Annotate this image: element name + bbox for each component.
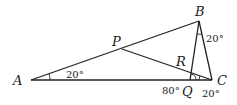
label-q: Q — [182, 84, 193, 99]
angle-label-b: 20° — [206, 33, 224, 44]
segment-bc — [199, 21, 212, 80]
label-b: B — [194, 4, 205, 19]
label-a: A — [12, 73, 22, 88]
geometry-diagram: A B C P R Q 20° 20° 20° 80° — [0, 0, 237, 105]
label-r: R — [175, 54, 186, 69]
label-p: P — [111, 34, 121, 49]
segment-bq — [190, 21, 199, 80]
angle-arc-a — [49, 74, 50, 81]
angle-label-a: 20° — [66, 69, 84, 80]
segment-ab — [31, 21, 199, 80]
angle-label-q: 80° — [162, 85, 180, 96]
label-c: C — [217, 73, 227, 88]
segment-pc — [122, 49, 212, 80]
angle-label-c: 20° — [202, 88, 220, 99]
